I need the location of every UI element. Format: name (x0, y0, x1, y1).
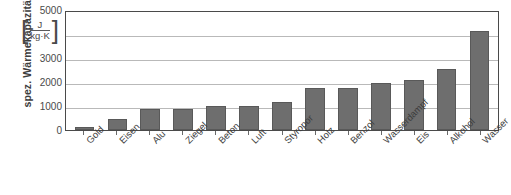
unit-numerator: J (38, 20, 43, 30)
bar-wasser[interactable] (470, 31, 490, 130)
y-tick-1000: 1000 (2, 102, 62, 112)
bar-slot (68, 12, 101, 130)
label-slot: Luft (232, 133, 265, 193)
bar-eisen[interactable] (108, 119, 128, 130)
bar-slot (364, 12, 397, 130)
bar-slot (134, 12, 167, 130)
bar-slot (101, 12, 134, 130)
label-slot: Eisen (100, 133, 133, 193)
y-tick-3000: 3000 (2, 54, 62, 64)
y-tick-0: 0 (2, 126, 62, 136)
bar-beton[interactable] (206, 106, 226, 130)
label-slot: Wasser (464, 133, 497, 193)
bar-series (66, 12, 498, 130)
bracket-open-icon: [ (21, 20, 28, 41)
label-slot: Ziegel (166, 133, 199, 193)
bar-benzol[interactable] (338, 88, 358, 130)
label-slot: Beton (199, 133, 232, 193)
bar-slot (430, 12, 463, 130)
label-slot: Alu (133, 133, 166, 193)
bar-slot (298, 12, 331, 130)
bar-ziegel[interactable] (173, 109, 193, 130)
label-slot: Eis (398, 133, 431, 193)
bar-alu[interactable] (140, 109, 160, 130)
bracket-close-icon: ] (52, 20, 59, 41)
bar-alkohol[interactable] (437, 69, 457, 130)
bar-slot (233, 12, 266, 130)
y-tick-2000: 2000 (2, 78, 62, 88)
bar-slot (463, 12, 496, 130)
label-slot: Wasserdampf (365, 133, 398, 193)
bar-slot (167, 12, 200, 130)
bar-styropor[interactable] (272, 102, 292, 130)
y-axis-unit-symbol: [ J kg·K ] (21, 20, 59, 42)
label-slot: Alkohol (431, 133, 464, 193)
label-slot: Holz (299, 133, 332, 193)
bar-slot (331, 12, 364, 130)
x-axis-category-labels: GoldEisenAluZiegelBetonLuftStyroporHolzB… (65, 133, 499, 193)
label-slot: Gold (67, 133, 100, 193)
bar-slot (266, 12, 299, 130)
unit-denominator: kg·K (30, 30, 50, 41)
plot-area (65, 11, 499, 131)
label-slot: Benzol (332, 133, 365, 193)
bar-luft[interactable] (239, 106, 259, 130)
bar-slot (200, 12, 233, 130)
y-axis-tick-labels: 5000 [ J kg·K ] 3000 2000 1000 0 (0, 0, 62, 195)
label-slot: Styropor (265, 133, 298, 193)
